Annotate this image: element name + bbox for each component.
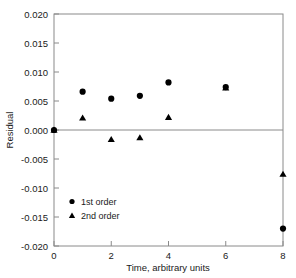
circle-marker <box>80 89 86 95</box>
y-tick-label: 0.010 <box>24 67 48 78</box>
x-tick-label: 8 <box>280 250 285 261</box>
legend-label-1st-order: 1st order <box>81 197 117 207</box>
circle-marker <box>280 226 286 232</box>
circle-marker <box>108 96 114 102</box>
x-tick-label: 0 <box>51 250 56 261</box>
y-axis-tick-labels: 0.0200.0150.0100.0050.000-0.005-0.010-0.… <box>21 9 48 252</box>
legend-label-2nd-order: 2nd order <box>81 211 120 221</box>
y-tick-label: -0.010 <box>21 183 48 194</box>
residual-scatter-chart: 0.0200.0150.0100.0050.000-0.005-0.010-0.… <box>0 0 296 278</box>
circle-marker <box>165 79 171 85</box>
x-tick-label: 2 <box>109 250 114 261</box>
x-tick-label: 4 <box>166 250 171 261</box>
y-axis-title: Residual <box>4 112 15 149</box>
y-tick-label: 0.015 <box>24 38 48 49</box>
x-axis-title: Time, arbitrary units <box>126 262 210 273</box>
chart-canvas: 0.0200.0150.0100.0050.000-0.005-0.010-0.… <box>0 0 296 278</box>
circle-marker <box>69 199 74 204</box>
y-tick-label: 0.020 <box>24 9 48 20</box>
y-tick-label: -0.020 <box>21 241 48 252</box>
y-tick-label: 0.000 <box>24 125 48 136</box>
x-tick-label: 6 <box>223 250 228 261</box>
y-tick-label: -0.015 <box>21 212 48 223</box>
circle-marker <box>137 93 143 99</box>
y-tick-label: 0.005 <box>24 96 48 107</box>
y-tick-label: -0.005 <box>21 154 48 165</box>
